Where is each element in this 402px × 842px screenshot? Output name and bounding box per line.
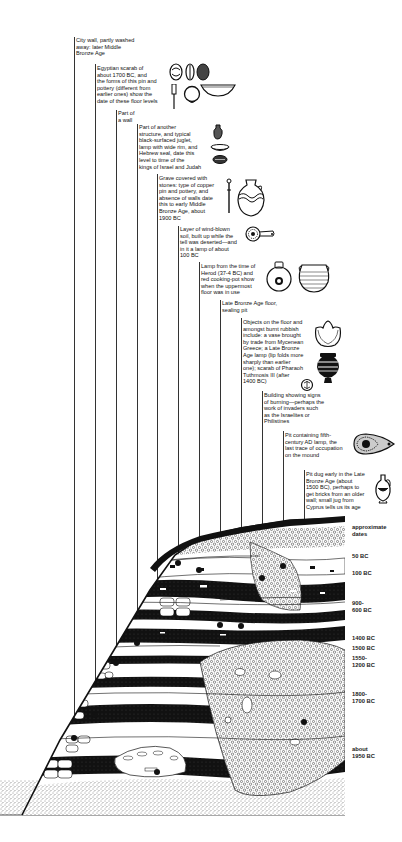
dates-header: approximate dates — [352, 524, 386, 537]
date-100bc: 100 BC — [352, 570, 372, 577]
date-900-600bc: 900- 600 BC — [352, 600, 372, 613]
date-50bc: 50 BC — [352, 553, 368, 560]
date-1500bc: 1500 BC — [352, 645, 375, 652]
date-about-1950bc: about 1950 BC — [352, 746, 375, 759]
date-1800-1700bc: 1800- 1700 BC — [352, 691, 375, 704]
date-1550-1200bc: 1550- 1200 BC — [352, 655, 375, 668]
tell-cross-section — [0, 0, 402, 842]
date-1400bc: 1400 BC — [352, 635, 375, 642]
